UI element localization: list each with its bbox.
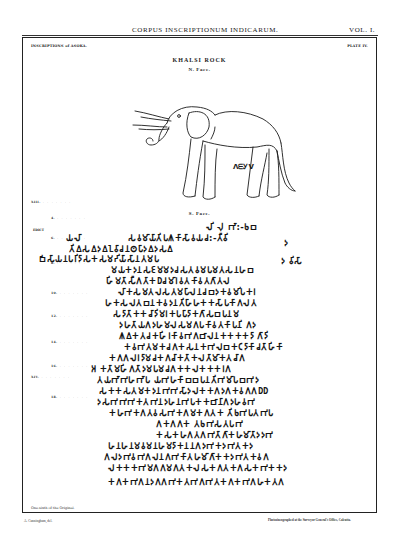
leader-dots: . . . . . . . [41,200,72,204]
inscription-line: 𑀤 𑀯𑀺𑀲𑀸 [281,257,303,266]
inscription-line: 𑀢𑀬𑀪𑀸𑀪𑀳𑀪𑀸𑀧 𑀬𑀪𑀳𑀓𑀸𑀩𑀩𑀧𑀦𑀢𑀺𑀪𑀫𑀸𑀧𑀩𑀪𑀤 [97,376,259,385]
inscription-line: 𑀫𑀬𑀓𑀤𑀦𑀲𑀚𑀫𑀫𑀤𑀘𑀲𑀢𑀯𑀫𑀧𑀫𑀢𑀲𑀦𑀳𑀩 [111,266,254,275]
line-number-text: XIII. [31,200,41,204]
inscription-line: 𑀮𑀓𑀓𑀓𑀪𑀫𑀕𑀕𑀫𑀕𑀢𑀓𑀮𑀲𑀓𑀕𑀢𑀓𑀕𑀲𑀓𑀪𑀓𑀓𑀤 [108,464,288,473]
plate-title: KHALSI ROCK [23,57,376,63]
inscription-line: 𑀳𑀓𑀲𑀮𑀢𑀩𑀦𑀓𑀯𑀤𑀦𑀢𑀺𑀳𑀸𑀳𑀓𑀓𑀲𑀸𑀧𑀓𑀸𑀕𑀮𑀢 [105,299,257,308]
inscription-line: 𑀲𑀯𑀫𑀸𑀬𑀸𑀢𑀺𑀧𑀰𑀓𑀸𑀲𑀸𑀯𑀬𑀘:-𑀢𑀻𑀯𑀺 [128,234,229,243]
line-number-label: 18. . . . . . . . [51,395,88,399]
leader-dots: . . . . . . . [55,216,86,220]
elephant-caption: ᐱᗴᎩᐯ [233,163,254,171]
inscription-line: 𑀲𑀓𑀓𑀲𑀢𑀫𑀓𑀤𑀦𑀪𑀪𑀲𑀸𑀤𑀮𑀓𑀓𑀕𑀤𑀕𑀓𑀯𑀕𑀕𑀥𑀥 [99,387,269,396]
journal-title: CORPUS INSCRIPTIONUM INDICARUM. [132,26,278,34]
inscription-line: 𑀮𑀸𑀓𑀲𑀫𑀢𑀮𑀲𑀢𑀫𑀧𑀸𑀮𑀦𑀘𑀩𑀤𑀓𑀯𑀫𑀺𑀧𑀓𑀭 [118,288,257,297]
line-number-label: 4. . . . . . . . [51,216,86,220]
inscription-line: 𑀓𑀳𑀪𑀓𑀕𑀢𑀯𑀲𑀪𑀓𑀕𑀫𑀓𑀕𑀢𑀓 𑀢𑀺𑀨𑀪𑀧𑀢𑀪𑀧 [109,409,274,418]
volume-label: VOL. I. [349,26,375,34]
elephant-drawing-icon: ᐱᗴᎩᐯ [107,83,307,208]
leader-dots: . . . . . . . [57,364,88,368]
line-number-label: 16. . . . . . . . [51,364,88,368]
plate-frame: INSCRIPTIONS of ASOKA. PLATE IV. KHALSI … [22,37,377,513]
inscription-line: 𑀩𑀺𑀲𑀸𑀬𑀦𑀧𑀭𑀺𑀤𑀸𑀲𑀓𑀲𑀫𑀟𑀺𑀬𑀸𑀲𑀸𑀦𑀢𑀫𑀧 [39,255,159,264]
inscription-line: 𑀤𑀲𑀪𑀪𑀪𑀓𑀢𑀪𑀦𑀤𑀳𑀦𑀪𑀧𑀓𑀓𑀩𑀸𑀦𑀸𑀕𑀤𑀳𑀯𑀪 [97,398,256,407]
line-number-label: XIV. . . . . . . . [31,375,70,379]
north-face-heading: N. Face. [23,67,376,72]
line-number-label: 10. . . . . . . . [51,291,88,295]
leader-dots: . . . . . . . [57,395,88,399]
inscription-line: 𑀓𑀕𑀓𑀪𑀕𑀦𑀤𑀕𑀕𑀪𑀓𑀢𑀪𑀕𑀪𑀢𑀓𑀕𑀓𑀪𑀕𑀳𑀓𑀢𑀕 [108,478,285,487]
inscription-line: 𑀓𑀲𑀓𑀳𑀕𑀢𑀕𑀪𑀢𑀸𑀕𑀸𑀓𑀳𑀫𑀸𑀢𑀸𑀤𑀤𑀪 [156,431,274,440]
artist-credit: A. Cunningham, del. [24,519,52,523]
inscription-line: 𑀓𑀕𑀕𑀮𑀭𑀤𑀸𑀫𑀘𑀓𑀕𑀘𑀸𑀓𑀢𑀸𑀓𑀮𑀢𑀸𑀫𑀸𑀓𑀢𑀘𑀸𑀕 [109,354,246,363]
leader-dots: . . . . . . . [57,314,88,318]
line-number-label: 12. . . . . . . . [51,314,88,318]
leader-dots: . . . . . . . [57,340,88,344]
inscription-line: 𑀓𑀯𑀪𑀢𑀫𑀓𑀘𑀕𑀓𑀲𑀦𑀓𑀪𑀮𑀩𑀓𑀝𑀤𑀸𑀓𑀸𑀘𑀢𑀸𑀳𑀺𑀓𑀸 [124,343,284,352]
scale-note: One-sixth of the Original. [31,506,75,510]
plate-number: PLATE IV. [347,44,368,48]
top-rule [22,35,378,36]
inscription-line: 𑀕𑀓𑀕𑀕𑀓 𑀢𑀨𑀪𑀲𑀢𑀧𑀪 [156,420,243,429]
line-number-label: 14. . . . . . . . [51,340,88,344]
inscription-line: 𑀰𑀏𑀓𑀢𑀘𑀓𑀳𑀺𑀭𑀓𑀸𑀯𑀪𑀕𑀩𑀸𑀮𑀦𑀓𑀓𑀓𑀓𑀤𑀸 𑀕𑀸𑀤𑀺 [119,332,268,341]
inscription-line: 𑀤 [284,239,289,248]
inscription-line: 𑀤𑀳𑀢𑀸𑀬𑀕𑀤𑀳𑀫𑀮𑀲𑀫𑀕𑀧𑀓𑀸𑀯𑀢𑀓𑀸𑀧𑀦𑀺 𑀕𑀤 [119,321,257,330]
inscription-line: 𑀮𑀺 𑀮𑀼 𑀪𑀸:-𑀨𑀩 [206,223,257,232]
inscription-line: 𑀕𑀮𑀤𑀪𑀯𑀪𑀕𑀮𑀦𑀕𑀪𑀓𑀸𑀢𑀳𑀫𑀸𑀕𑀸𑀓𑀓𑀤𑀪𑀢𑀓𑀯𑀕 [104,453,269,462]
leader-dots: . . . . . . . [57,291,88,295]
edict-label: EDICT [33,228,44,232]
printer-credit: Photozincographed at the Surveyor Genera… [268,518,351,522]
inscription-line: 𑀬𑀮𑀸 [66,234,81,243]
inscription-line: 𑀳𑀺𑀫𑀢𑀸𑀲𑀻𑀕𑀢𑀸𑀓𑀥𑀘𑀫𑀸𑀭𑀯𑀢𑀓𑀸𑀯𑀢𑀕𑀸𑀢𑀮 [106,277,231,286]
inscription-line: 𑀳𑀦𑀳𑀦𑀫𑀯𑀫𑀦𑀳𑀫𑀤𑀸𑀓𑀦𑀦𑀕𑀤𑀪𑀓𑀤𑀪𑀢𑀓𑀤 [108,442,254,451]
inscription-line: 𑀅 𑀓𑀢𑀸𑀫𑀳𑀺𑀕𑀢𑀸𑀤𑀫𑀧𑀫𑀘𑀕𑀓𑀓𑀮𑀓𑀓𑀓𑀭𑀕 [91,365,232,374]
leader-dots: . . . . . . . [39,375,70,379]
line-number-label: XIII. . . . . . . . [31,200,72,204]
inscription-line: 𑀢𑀺𑀏𑀲𑀏𑀤𑀏𑀑𑀯𑀸𑀘𑀦𑀣𑀧𑀸𑀤𑀏𑀤𑀲𑀏 [69,245,174,254]
inscription-line: 𑀲𑀤𑀸𑀢𑀸𑀓𑀓𑀘𑀸𑀤𑀺𑀫𑀭𑀓𑀧𑀧𑀸𑀤𑀸𑀓𑀕𑀸𑀲𑀩𑀧𑀦𑀫 [113,310,239,319]
series-label: INSCRIPTIONS of ASOKA. [31,44,87,48]
line-number-text: XIV. [31,375,39,379]
